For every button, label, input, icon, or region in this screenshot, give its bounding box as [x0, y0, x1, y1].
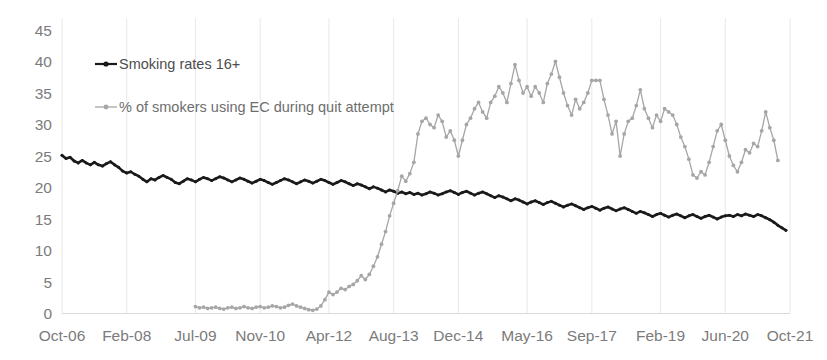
data-point: [784, 229, 787, 232]
data-point: [578, 107, 582, 111]
data-point: [667, 110, 671, 114]
data-point: [210, 306, 214, 310]
data-point: [226, 178, 229, 181]
data-point: [473, 107, 477, 111]
data-point: [566, 104, 570, 108]
data-point: [647, 213, 650, 216]
data-point: [433, 192, 436, 195]
data-point: [736, 213, 739, 216]
x-tick-Jun-20: Jun-20: [702, 327, 750, 344]
y-tick-20: 20: [35, 179, 53, 196]
data-point: [246, 306, 250, 310]
data-point: [748, 151, 752, 155]
data-point: [700, 217, 703, 220]
data-point: [453, 191, 456, 194]
data-point: [549, 72, 553, 76]
data-point: [291, 302, 295, 306]
data-point: [380, 242, 384, 246]
data-point: [740, 160, 744, 164]
legend-item-ec-quit-attempt[interactable]: % of smokers using EC during quit attemp…: [95, 99, 394, 115]
data-point: [89, 163, 92, 166]
data-point: [667, 216, 670, 219]
data-point: [214, 177, 217, 180]
data-point: [452, 138, 456, 142]
data-point: [416, 192, 419, 195]
data-point: [295, 182, 298, 185]
data-point: [594, 79, 598, 83]
data-point: [699, 170, 703, 174]
data-point: [626, 119, 630, 123]
y-tick-30: 30: [35, 116, 53, 133]
data-point: [420, 119, 424, 123]
data-point: [708, 214, 711, 217]
data-point: [202, 176, 205, 179]
data-point: [230, 305, 234, 309]
data-point: [380, 189, 383, 192]
data-point: [255, 180, 258, 183]
data-point: [400, 174, 404, 178]
data-point: [566, 204, 569, 207]
data-point: [509, 199, 512, 202]
data-point: [570, 202, 573, 205]
data-point: [117, 166, 120, 169]
data-point: [234, 178, 237, 181]
data-point: [133, 173, 136, 176]
data-point: [655, 213, 658, 216]
data-point: [489, 194, 492, 197]
data-point: [659, 119, 663, 123]
data-point: [744, 212, 747, 215]
data-point: [348, 182, 351, 185]
data-point: [723, 138, 727, 142]
data-point: [542, 203, 545, 206]
legend-item-smoking-rates[interactable]: Smoking rates 16+: [95, 56, 240, 72]
data-point: [707, 160, 711, 164]
data-point: [533, 85, 537, 89]
data-point: [703, 173, 707, 177]
data-point: [412, 193, 415, 196]
data-point: [530, 200, 533, 203]
data-point: [190, 178, 193, 181]
data-point: [81, 159, 84, 162]
data-point: [162, 174, 165, 177]
data-point: [351, 283, 355, 287]
data-point: [340, 179, 343, 182]
data-point: [651, 215, 654, 218]
data-point: [715, 129, 719, 133]
data-point: [267, 181, 270, 184]
data-point: [469, 116, 473, 120]
data-point: [594, 207, 597, 210]
data-point: [526, 202, 529, 205]
data-point: [335, 290, 339, 294]
data-point: [517, 79, 521, 83]
data-point: [772, 138, 776, 142]
data-point: [611, 207, 614, 210]
data-point: [546, 201, 549, 204]
data-point: [501, 91, 505, 95]
data-point: [562, 206, 565, 209]
data-point: [425, 192, 428, 195]
data-point: [198, 178, 201, 181]
data-point: [109, 160, 112, 163]
data-point: [266, 305, 270, 309]
data-point: [695, 176, 699, 180]
data-point: [344, 180, 347, 183]
data-point: [643, 211, 646, 214]
data-point: [388, 189, 391, 192]
data-point: [105, 162, 108, 165]
data-point: [469, 192, 472, 195]
data-point: [113, 163, 116, 166]
data-point: [339, 286, 343, 290]
data-point: [473, 194, 476, 197]
data-point: [194, 180, 197, 183]
data-point: [279, 179, 282, 182]
data-point: [695, 215, 698, 218]
legend-swatch-marker: [104, 105, 109, 110]
data-point: [396, 189, 400, 193]
data-point: [307, 308, 311, 312]
data-point: [347, 285, 351, 289]
data-point: [529, 94, 533, 98]
data-point: [400, 190, 403, 193]
data-point: [238, 177, 241, 180]
data-point: [186, 177, 189, 180]
data-point: [376, 187, 379, 190]
